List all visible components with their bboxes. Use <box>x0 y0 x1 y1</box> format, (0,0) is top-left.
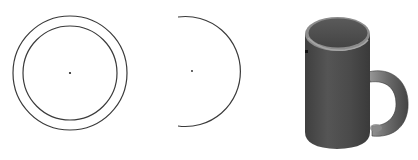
arc-center-point <box>191 70 193 72</box>
arc-figure <box>178 17 240 127</box>
mug-body <box>305 34 370 149</box>
arc-path <box>178 17 240 127</box>
mug-figure <box>305 17 408 149</box>
double-circle-figure <box>13 16 127 130</box>
figure-svg <box>0 0 418 160</box>
mug-handle-highlight <box>370 124 382 132</box>
center-point <box>69 72 71 74</box>
mug-marker <box>305 50 308 53</box>
mug-opening <box>309 19 368 48</box>
figure-canvas <box>0 0 418 160</box>
